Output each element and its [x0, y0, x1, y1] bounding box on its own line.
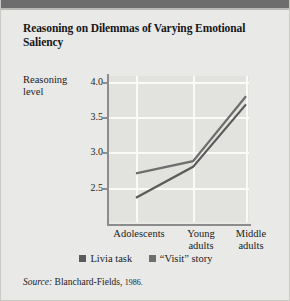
legend-label: Livia task — [90, 253, 132, 264]
legend-label: “Visit” story — [160, 253, 213, 264]
source-citation: Blanchard-Fields, — [55, 277, 123, 287]
figure-container: Reasoning on Dilemmas of Varying Emotion… — [0, 0, 290, 301]
x-tick-label-adolescents: Adolescents — [101, 228, 177, 240]
header-bar-edge — [1, 8, 290, 10]
x-tick-label-young-adults: Young adults — [177, 228, 225, 251]
source-prefix: Source: — [23, 277, 52, 287]
y-tick-label: 2.5 — [69, 182, 103, 193]
x-axis-labels: Adolescents Young adults Middle adults — [101, 228, 261, 256]
y-tick-label: 4.0 — [69, 76, 103, 87]
legend-item-visit-story: “Visit” story — [149, 253, 213, 264]
y-tick-label: 3.0 — [69, 146, 103, 157]
x-axis-line — [107, 224, 251, 226]
x-tick-label-middle-adults-line1: Middle — [236, 228, 266, 239]
x-tick-label-young-adults-line2: adults — [188, 240, 213, 251]
chart-title: Reasoning on Dilemmas of Varying Emotion… — [23, 22, 263, 49]
y-tick-label: 3.5 — [69, 111, 103, 122]
source-note: Source: Blanchard-Fields, 1986. — [23, 277, 143, 287]
x-tick-label-young-adults-line1: Young — [187, 228, 215, 239]
legend-swatch-icon — [79, 255, 86, 262]
series-line-livia-task — [136, 104, 246, 197]
header-bar — [1, 0, 290, 8]
series-lines — [109, 76, 249, 222]
series-line-visit-story — [136, 96, 246, 173]
x-tick-label-middle-adults: Middle adults — [225, 228, 277, 251]
x-tick-label-middle-adults-line2: adults — [238, 240, 263, 251]
legend-item-livia-task: Livia task — [79, 253, 132, 264]
legend-swatch-icon — [149, 255, 156, 262]
legend: Livia task “Visit” story — [1, 253, 290, 264]
source-year: 1986. — [125, 278, 143, 287]
